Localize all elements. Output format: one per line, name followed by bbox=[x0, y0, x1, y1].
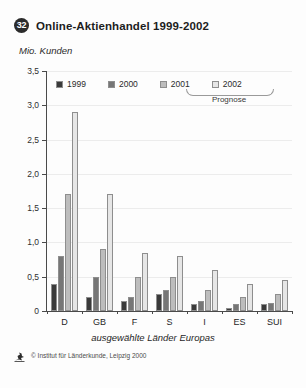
bar-group bbox=[82, 71, 117, 311]
bar-d-2001 bbox=[65, 194, 71, 311]
legend-label-2000: 2000 bbox=[119, 79, 138, 89]
y-tick-mark bbox=[42, 174, 46, 175]
bar-d-1999 bbox=[51, 284, 57, 311]
x-tick-mark bbox=[292, 311, 293, 314]
x-tick-mark bbox=[117, 311, 118, 314]
legend-item-2000: 2000 bbox=[108, 79, 138, 89]
page-title: Online-Aktienhandel 1999-2002 bbox=[36, 20, 209, 32]
y-tick-mark bbox=[42, 242, 46, 243]
bar-i-2002 bbox=[212, 270, 218, 311]
bar-f-1999 bbox=[121, 301, 127, 311]
x-tick-mark bbox=[257, 311, 258, 314]
y-tick-mark bbox=[42, 140, 46, 141]
plot-area: 00,51,01,52,02,53,03,5 DGBFSIESSUI bbox=[46, 71, 292, 312]
bar-gb-2001 bbox=[100, 249, 106, 311]
y-tick-label: 2,5 bbox=[27, 135, 39, 145]
bars-layer bbox=[47, 71, 292, 311]
bar-s-2002 bbox=[177, 256, 183, 311]
bar-d-2000 bbox=[58, 256, 64, 311]
legend-label-1999: 1999 bbox=[67, 79, 86, 89]
x-tick-mark bbox=[47, 311, 48, 314]
x-tick-label-i: I bbox=[203, 317, 206, 327]
x-tick-label-f: F bbox=[132, 317, 138, 327]
bar-s-1999 bbox=[156, 294, 162, 311]
x-axis-caption: ausgewählte Länder Europas bbox=[0, 332, 306, 343]
bar-group bbox=[117, 71, 152, 311]
legend-swatch-2001 bbox=[160, 81, 167, 88]
bar-f-2000 bbox=[128, 297, 134, 311]
bar-s-2001 bbox=[170, 277, 176, 311]
bar-sui-2000 bbox=[268, 303, 274, 311]
y-tick-label: 2,0 bbox=[27, 169, 39, 179]
y-tick-label: 0 bbox=[34, 306, 39, 316]
bar-i-2001 bbox=[205, 290, 211, 311]
bar-es-1999 bbox=[226, 308, 232, 311]
bar-d-2002 bbox=[72, 112, 78, 311]
bar-s-2000 bbox=[163, 290, 169, 311]
ifl-logo-icon bbox=[13, 349, 26, 361]
x-tick-mark bbox=[187, 311, 188, 314]
x-tick-label-sui: SUI bbox=[267, 317, 282, 327]
x-tick-label-s: S bbox=[166, 317, 172, 327]
chart-footer: © Institut für Länderkunde, Leipzig 2000 bbox=[13, 349, 146, 361]
bar-group bbox=[152, 71, 187, 311]
x-tick-label-es: ES bbox=[233, 317, 245, 327]
bar-sui-1999 bbox=[261, 304, 267, 311]
y-tick-mark bbox=[42, 105, 46, 106]
chart-figure: 32 Online-Aktienhandel 1999-2002 Mio. Ku… bbox=[0, 0, 306, 388]
legend-label-2002: 2002 bbox=[223, 79, 242, 89]
y-tick-label: 3,5 bbox=[27, 66, 39, 76]
y-tick-mark bbox=[42, 311, 46, 312]
legend-label-2001: 2001 bbox=[171, 79, 190, 89]
bar-group bbox=[187, 71, 222, 311]
bar-es-2000 bbox=[233, 304, 239, 311]
y-tick-label: 1,0 bbox=[27, 237, 39, 247]
copyright-text: © Institut für Länderkunde, Leipzig 2000 bbox=[31, 352, 146, 359]
bar-i-2000 bbox=[198, 301, 204, 311]
bar-gb-1999 bbox=[86, 297, 92, 311]
chart-legend: 1999200020012002 bbox=[56, 79, 242, 89]
figure-number-badge: 32 bbox=[14, 18, 29, 33]
legend-item-2002: 2002 bbox=[212, 79, 242, 89]
bar-group bbox=[257, 71, 292, 311]
legend-swatch-2000 bbox=[108, 81, 115, 88]
x-tick-mark bbox=[152, 311, 153, 314]
chart-header: 32 Online-Aktienhandel 1999-2002 bbox=[14, 18, 209, 33]
y-tick-label: 1,5 bbox=[27, 203, 39, 213]
y-tick-label: 0,5 bbox=[27, 272, 39, 282]
bar-sui-2001 bbox=[275, 294, 281, 311]
bar-es-2001 bbox=[240, 297, 246, 311]
legend-swatch-2002 bbox=[212, 81, 219, 88]
bar-f-2002 bbox=[142, 253, 148, 311]
y-axis-unit-label: Mio. Kunden bbox=[19, 45, 72, 56]
y-tick-mark bbox=[42, 208, 46, 209]
x-tick-mark bbox=[82, 311, 83, 314]
bar-group bbox=[222, 71, 257, 311]
y-tick-mark bbox=[42, 71, 46, 72]
bar-group bbox=[47, 71, 82, 311]
x-tick-label-d: D bbox=[61, 317, 68, 327]
bar-f-2001 bbox=[135, 277, 141, 311]
bar-gb-2002 bbox=[107, 194, 113, 311]
bar-gb-2000 bbox=[93, 277, 99, 311]
legend-swatch-1999 bbox=[56, 81, 63, 88]
legend-item-2001: 2001 bbox=[160, 79, 190, 89]
prognose-annotation: Prognose bbox=[186, 89, 272, 105]
prognose-label: Prognose bbox=[186, 95, 272, 104]
x-tick-mark bbox=[222, 311, 223, 314]
bar-es-2002 bbox=[247, 284, 253, 311]
x-tick-label-gb: GB bbox=[93, 317, 106, 327]
legend-item-1999: 1999 bbox=[56, 79, 86, 89]
y-tick-label: 3,0 bbox=[27, 100, 39, 110]
bar-i-1999 bbox=[191, 304, 197, 311]
bar-sui-2002 bbox=[282, 280, 288, 311]
y-tick-mark bbox=[42, 277, 46, 278]
